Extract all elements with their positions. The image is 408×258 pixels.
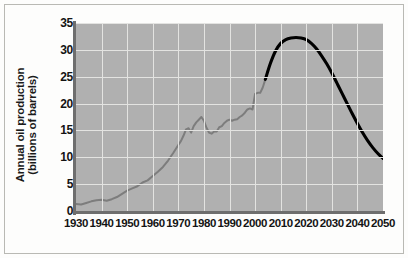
x-axis-tick-label: 2030 — [320, 217, 344, 229]
gridline-vertical — [153, 23, 154, 211]
y-axis-tick-label: 15 — [60, 123, 73, 137]
y-axis-tick-label: 30 — [60, 43, 73, 57]
y-axis-tick-label: 10 — [60, 150, 73, 164]
gridline-horizontal — [76, 104, 383, 105]
chart-frame: Annual oil production (billions of barre… — [4, 4, 404, 254]
x-axis-tick-label: 1940 — [90, 217, 114, 229]
x-axis-tick-label: 1950 — [115, 217, 139, 229]
x-axis-tick-label: 2040 — [345, 217, 369, 229]
x-axis-tick-label: 2020 — [294, 217, 318, 229]
gridline-vertical — [255, 23, 256, 211]
gridline-vertical — [332, 23, 333, 211]
gridline-vertical — [281, 23, 282, 211]
gridline-vertical — [306, 23, 307, 211]
x-axis-tick-label: 1960 — [141, 217, 165, 229]
x-axis-tick-label: 1990 — [218, 217, 242, 229]
gridline-vertical — [178, 23, 179, 211]
y-axis-tick-label: 35 — [60, 16, 73, 30]
x-axis-tick-label: 1930 — [64, 217, 88, 229]
chart-screenshot: Annual oil production (billions of barre… — [0, 0, 408, 258]
x-axis-tick-label: 1980 — [192, 217, 216, 229]
y-axis-tick-label: 25 — [60, 70, 73, 84]
gridline-horizontal — [76, 77, 383, 78]
x-axis-tick-label: 2000 — [243, 217, 267, 229]
x-axis-tick-label: 1970 — [166, 217, 190, 229]
y-axis-title-line-1: Annual oil production — [14, 68, 26, 183]
gridline-vertical — [204, 23, 205, 211]
series-line-projection — [265, 38, 383, 159]
series-line-historical — [76, 79, 265, 204]
gridline-horizontal — [76, 50, 383, 51]
x-axis-tick-labels: 1930194019501960197019801990200020102020… — [76, 217, 383, 235]
plot-area — [76, 23, 383, 211]
x-axis-tick-label: 2010 — [269, 217, 293, 229]
gridline-vertical — [102, 23, 103, 211]
y-axis-title: Annual oil production (billions of barre… — [6, 25, 46, 225]
y-axis-tick-labels: 05101520253035 — [43, 19, 73, 211]
gridline-vertical — [230, 23, 231, 211]
x-axis-line — [73, 211, 385, 214]
x-axis-tick-label: 2050 — [371, 217, 395, 229]
gridline-horizontal — [76, 184, 383, 185]
gridline-vertical — [127, 23, 128, 211]
y-axis-title-line-2: (billions of barrels) — [26, 75, 38, 174]
gridline-vertical — [357, 23, 358, 211]
gridline-horizontal — [76, 157, 383, 158]
y-axis-tick-label: 20 — [60, 97, 73, 111]
gridline-horizontal — [76, 23, 383, 24]
gridline-horizontal — [76, 130, 383, 131]
